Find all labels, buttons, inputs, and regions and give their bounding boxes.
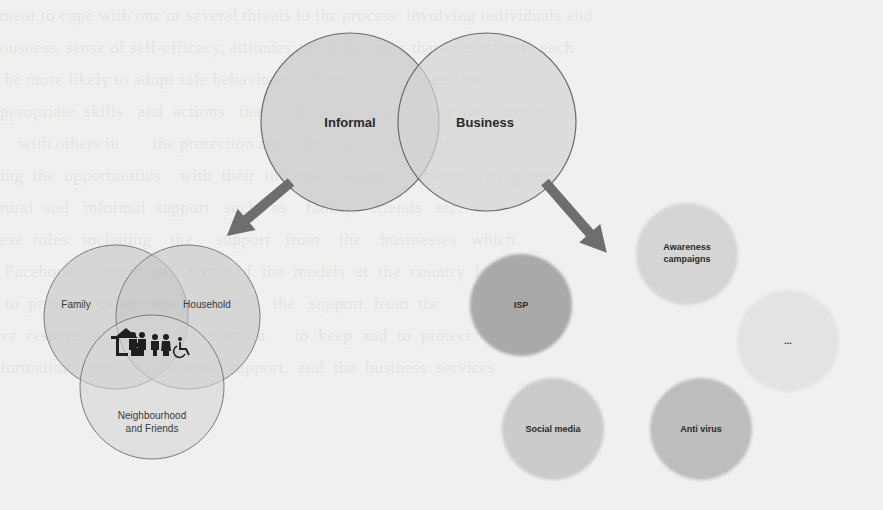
awareness-label-line2: campaigns (663, 253, 710, 265)
informal-label: Informal (324, 115, 375, 130)
arrows (218, 171, 618, 262)
top-venn (261, 33, 576, 211)
business-label: Business (456, 115, 514, 130)
neighbourhood-label-line1: Neighbourhood (118, 409, 186, 422)
informal-to-subgroups-arrow (218, 171, 300, 247)
family-label: Family (61, 298, 90, 311)
social-media-label: Social media (525, 423, 580, 435)
awareness-label-line1: Awareness (663, 241, 710, 253)
neighbourhood-label-line2: and Friends (118, 422, 186, 435)
more-label: ... (784, 335, 792, 347)
awareness-label: Awareness campaigns (663, 241, 710, 265)
anti-virus-label: Anti virus (680, 423, 722, 435)
business-to-measures-arrow (534, 173, 617, 262)
neighbourhood-label: Neighbourhood and Friends (118, 409, 186, 435)
household-label: Household (183, 298, 231, 311)
neighbourhood-circle[interactable] (80, 315, 224, 459)
isp-label: ISP (514, 299, 529, 311)
